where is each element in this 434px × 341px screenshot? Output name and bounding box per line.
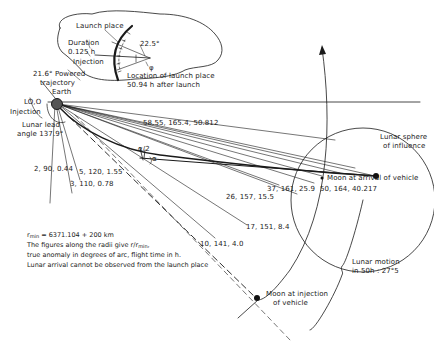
alpha-label: α	[152, 155, 157, 163]
powered-trajectory-label: 21.6° Powered	[33, 70, 85, 78]
moon-arrival-label: Moon at arrival of vehicle	[327, 174, 419, 182]
earth-injection-label: Injection	[10, 108, 41, 116]
inset-location-time: 50.94 h after launch	[127, 81, 200, 89]
lunar-sphere-label: Lunar sphere	[380, 133, 427, 141]
powered-trajectory-label-2: trajectory	[40, 79, 75, 87]
radius-label: 37, 161, 25.9	[267, 185, 315, 193]
radius-label: 10, 141, 4.0	[200, 240, 244, 248]
radius-label: 2, 90, 0.44	[34, 165, 73, 173]
radius-label: 3, 110, 0.78	[70, 180, 114, 188]
earth-label: Earth	[52, 88, 71, 96]
inset-location-label: Location of launch place	[127, 72, 215, 80]
lunar-lead-label: Lunar lead	[22, 121, 60, 129]
moon-injection-dot	[254, 295, 260, 301]
earth-circle	[52, 99, 63, 110]
radius-label: 58.55, 165.4, 50.812	[143, 119, 218, 127]
inset-phi-label: φ	[149, 64, 154, 72]
lunar-motion-label-2: in 50h : 27°5	[352, 267, 399, 275]
moon-injection-label: Moon at injection	[266, 290, 328, 298]
half-alpha-label: α/2	[138, 145, 150, 153]
lunar-orbit-arc	[258, 48, 327, 300]
note-observation: Lunar arrival cannot be observed from th…	[27, 260, 208, 270]
radius-label: 17, 151, 8.4	[246, 223, 290, 231]
inset-duration-value: 0.125 h	[68, 48, 95, 56]
inset-angle-label: 22.5°	[140, 40, 160, 48]
inset-injection-label: Injection	[73, 58, 104, 66]
note-anomaly: true anomaly in degrees of arc, flight t…	[27, 250, 181, 260]
radius-label: 5, 120, 1.55	[79, 168, 123, 176]
moon-injection-label-2: of vehicle	[273, 299, 308, 307]
inset-launch-place-label: Launch place	[76, 22, 124, 30]
inset-duration-label: Duration	[68, 39, 99, 47]
lunar-motion-label: Lunar motion	[352, 258, 400, 266]
lunar-lead-angle: angle 137.9°	[17, 130, 63, 138]
lo-label: LO,O	[24, 98, 41, 106]
lunar-sphere-label-2: of influence	[383, 142, 425, 150]
radius-label: 50, 164, 40.217	[320, 185, 377, 193]
radius-label: 26, 157, 15.5	[226, 193, 274, 201]
